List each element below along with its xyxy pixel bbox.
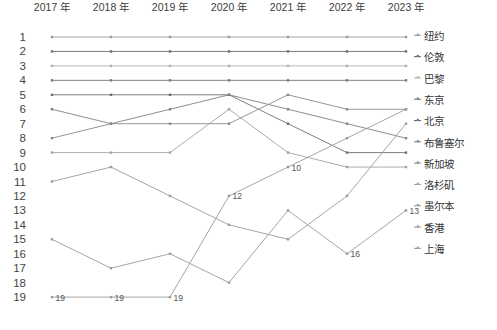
series-point-marker	[228, 50, 230, 52]
series-point-marker	[287, 79, 289, 81]
series-point-marker	[51, 108, 53, 110]
series-point-marker	[287, 238, 289, 240]
series-point-marker	[169, 65, 171, 67]
legend-item-label[interactable]: 上海	[424, 243, 445, 255]
legend-item-label[interactable]: 北京	[424, 115, 444, 127]
series-point-marker	[346, 137, 348, 139]
series-point-marker	[228, 94, 230, 96]
series-point-marker	[169, 296, 171, 298]
x-axis-tick-label: 2023 年	[388, 1, 424, 13]
data-label: 19	[174, 293, 184, 303]
series-point-marker	[110, 50, 112, 52]
x-axis-tick-label: 2021 年	[270, 1, 306, 13]
series-point-marker	[228, 36, 230, 38]
legend-item-label[interactable]: 新加坡	[424, 158, 455, 170]
series-line	[52, 109, 406, 167]
series-point-marker	[346, 79, 348, 81]
series-point-marker	[346, 36, 348, 38]
data-label: 19	[115, 293, 125, 303]
legend-item-label[interactable]: 墨尔本	[424, 200, 455, 212]
series-point-marker	[110, 79, 112, 81]
x-axis-tick-label: 2019 年	[152, 1, 188, 13]
legend-item-label[interactable]: 纽约	[424, 30, 444, 42]
series-point-marker	[110, 94, 112, 96]
y-axis-tick-label: 3	[20, 60, 26, 72]
series-point-marker	[110, 65, 112, 67]
series-point-marker	[228, 108, 230, 110]
series-point-marker	[287, 108, 289, 110]
y-axis-tick-label: 18	[13, 277, 26, 289]
legend-item-label[interactable]: 巴黎	[424, 73, 445, 85]
legend-item-label[interactable]: 伦敦	[424, 51, 445, 63]
series-point-marker	[110, 36, 112, 38]
series-point-marker	[405, 79, 407, 81]
legend-item-label[interactable]: 洛杉矶	[424, 179, 455, 191]
series-point-marker	[405, 151, 407, 153]
series-point-marker	[405, 166, 407, 168]
series-point-marker	[110, 267, 112, 269]
series-point-marker	[405, 108, 407, 110]
series-point-marker	[51, 151, 53, 153]
x-axis-year-labels: 2017 年2018 年2019 年2020 年2021 年2022 年2023…	[34, 1, 424, 13]
series-point-marker	[110, 151, 112, 153]
series-point-marker	[228, 123, 230, 125]
legend-marker-dot	[417, 161, 419, 163]
legend-group: 纽约伦敦巴黎东京北京布鲁塞尔新加坡洛杉矶墨尔本香港上海	[414, 30, 464, 255]
series-point-marker	[51, 65, 53, 67]
series-point-marker	[169, 253, 171, 255]
series-point-marker	[110, 296, 112, 298]
series-point-marker	[228, 195, 230, 197]
data-labels-group: 19191912101613	[56, 163, 420, 303]
series-point-marker	[51, 94, 53, 96]
data-label: 12	[233, 191, 243, 201]
series-point-marker	[405, 137, 407, 139]
legend-item-label[interactable]: 布鲁塞尔	[424, 137, 464, 149]
series-point-marker	[346, 123, 348, 125]
series-point-marker	[51, 50, 53, 52]
series-point-marker	[346, 195, 348, 197]
y-axis-tick-label: 7	[20, 118, 26, 130]
x-axis-tick-label: 2022 年	[329, 1, 365, 13]
y-axis-tick-label: 17	[13, 262, 26, 274]
y-axis-tick-label: 16	[13, 248, 26, 260]
series-point-marker	[169, 151, 171, 153]
series-line	[52, 109, 406, 297]
series-point-marker	[405, 123, 407, 125]
series-point-marker	[287, 151, 289, 153]
series-point-marker	[51, 180, 53, 182]
series-point-marker	[169, 36, 171, 38]
y-axis-tick-label: 19	[13, 291, 26, 303]
legend-item-label[interactable]: 东京	[424, 94, 444, 106]
y-axis-rank-labels: 12345678910111213141516171819	[13, 31, 26, 303]
series-line	[52, 95, 406, 138]
data-label: 10	[292, 163, 302, 173]
legend-marker-dot	[417, 204, 419, 206]
series-point-marker	[405, 209, 407, 211]
series-point-marker	[110, 123, 112, 125]
y-axis-tick-label: 1	[20, 31, 26, 43]
series-point-marker	[287, 36, 289, 38]
y-axis-tick-label: 12	[13, 190, 26, 202]
series-point-marker	[169, 79, 171, 81]
legend-item-label[interactable]: 香港	[424, 222, 445, 234]
series-point-marker	[405, 36, 407, 38]
legend-marker-dot	[417, 119, 419, 121]
series-point-marker	[169, 94, 171, 96]
series-point-marker	[110, 166, 112, 168]
legend-marker-dot	[417, 247, 419, 249]
series-point-marker	[346, 151, 348, 153]
y-axis-tick-label: 9	[20, 147, 26, 159]
x-axis-tick-label: 2018 年	[93, 1, 129, 13]
y-axis-tick-label: 8	[20, 132, 26, 144]
y-axis-tick-label: 13	[13, 204, 26, 216]
chart-canvas: 2017 年2018 年2019 年2020 年2021 年2022 年2023…	[0, 0, 497, 330]
legend-marker-dot	[417, 55, 419, 57]
series-point-marker	[405, 65, 407, 67]
series-point-marker	[228, 79, 230, 81]
legend-marker-dot	[417, 183, 419, 185]
series-point-marker	[287, 50, 289, 52]
x-axis-tick-label: 2017 年	[34, 1, 70, 13]
y-axis-tick-label: 5	[20, 89, 26, 101]
series-point-marker	[346, 166, 348, 168]
data-label: 19	[56, 293, 66, 303]
